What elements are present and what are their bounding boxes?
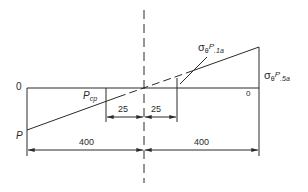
sigma1-leader xyxy=(180,57,207,84)
dim-400-right-label: 400 xyxy=(194,138,209,147)
stress-distribution-diagram xyxy=(0,0,308,192)
stress-line-left xyxy=(27,97,118,130)
zero-right-label: 0 xyxy=(246,90,250,98)
dim-25-right-label: 25 xyxy=(151,105,161,114)
sigma-theta-p-5a-label: σθP.5a xyxy=(264,70,290,82)
p-label: P xyxy=(16,131,23,141)
stress-line-dashed xyxy=(118,71,192,97)
dim-400-left-label: 400 xyxy=(79,138,94,147)
dim-25-left-label: 25 xyxy=(118,105,128,114)
zero-left-label: 0 xyxy=(16,82,22,92)
sigma-theta-p-1a-label: σθP.1a xyxy=(198,42,224,54)
pcp-label: Pcp xyxy=(83,91,97,102)
